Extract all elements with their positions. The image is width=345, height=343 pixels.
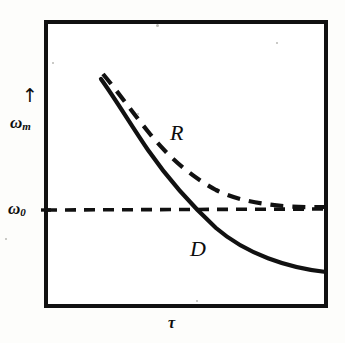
curve-layer — [0, 0, 345, 343]
y-axis-label-omega-m: ωm — [10, 114, 31, 132]
curve-label-R: R — [170, 122, 183, 144]
omega-0-subscript: 0 — [20, 206, 26, 218]
curve-D-solid — [101, 79, 326, 272]
omega-0-asymptote-line — [46, 209, 326, 210]
y-axis-label-omega-0: ω0 — [8, 200, 26, 218]
omega-0-symbol: ω — [8, 199, 20, 218]
x-axis-label-tau: τ — [168, 315, 175, 331]
curve-label-D: D — [190, 238, 206, 260]
curve-R-dashed — [103, 74, 326, 207]
omega-m-symbol: ω — [10, 113, 22, 132]
figure-root: ↑ ωm ω0 τ R D — [0, 0, 345, 343]
omega-m-subscript: m — [22, 120, 30, 132]
y-axis-arrow-icon: ↑ — [22, 86, 38, 105]
